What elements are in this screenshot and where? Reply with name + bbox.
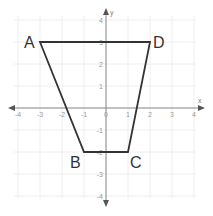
x-tick-label: 0: [104, 111, 108, 118]
x-tick-label: 3: [170, 111, 174, 118]
y-tick-label: 4: [99, 17, 103, 24]
vertex-label-c: C: [130, 154, 142, 171]
y-axis-label: y: [110, 9, 114, 17]
trapezoid-abcd: [40, 42, 150, 152]
y-tick-label: 2: [99, 61, 103, 68]
x-tick-label: 1: [126, 111, 130, 118]
vertex-label-d: D: [153, 34, 165, 51]
y-tick-label: -4: [97, 193, 103, 200]
trapezoid-outline: [40, 42, 150, 152]
x-tick-label: -2: [59, 111, 65, 118]
y-tick-label: -3: [97, 171, 103, 178]
x-tick-label: -4: [15, 111, 21, 118]
axes: xy: [8, 8, 205, 207]
x-axis-label: x: [198, 97, 202, 104]
x-tick-label: -3: [37, 111, 43, 118]
y-axis-up-arrow-icon: [103, 8, 109, 15]
y-axis-down-arrow-icon: [103, 200, 109, 207]
coordinate-plane: xy -4-3-2-101234-4-3-2-11234 ABCD: [0, 0, 213, 216]
x-tick-label: 4: [192, 111, 196, 118]
x-tick-label: -1: [81, 111, 87, 118]
y-tick-label: 1: [99, 83, 103, 90]
x-axis-right-arrow-icon: [198, 105, 205, 111]
x-tick-label: 2: [148, 111, 152, 118]
vertex-label-b: B: [70, 154, 81, 171]
vertex-label-a: A: [24, 34, 35, 51]
y-tick-label: -1: [97, 127, 103, 134]
